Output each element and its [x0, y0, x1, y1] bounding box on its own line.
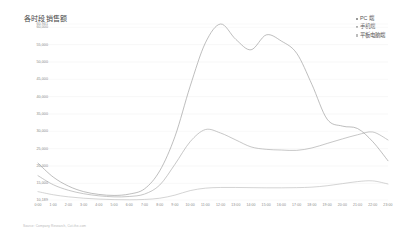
y-axis-tick-label: 60,941	[36, 22, 48, 26]
x-axis-tick-label: 17:00	[292, 203, 301, 207]
x-axis-tick-label: 1:00	[50, 203, 57, 207]
x-axis-tick-label: 8:00	[156, 203, 163, 207]
x-axis-tick-label: 21:00	[353, 203, 362, 207]
y-axis-tick-label: 25,000	[36, 147, 48, 151]
y-axis: 10,18915,00020,00025,00030,00035,00040,0…	[22, 22, 48, 200]
series-line	[38, 181, 388, 200]
x-axis-tick-label: 15:00	[262, 203, 271, 207]
x-axis-tick-label: 18:00	[307, 203, 316, 207]
x-axis: 0:001:002:003:004:005:006:007:008:009:00…	[38, 203, 388, 213]
x-axis-tick-label: 16:00	[277, 203, 286, 207]
y-axis-tick-label: 10,189	[36, 198, 48, 202]
x-axis-tick-label: 2:00	[65, 203, 72, 207]
y-axis-tick-label: 30,000	[36, 129, 48, 133]
x-axis-tick-label: 12:00	[216, 203, 225, 207]
x-axis-tick-label: 14:00	[246, 203, 255, 207]
plot-area: 10,18915,00020,00025,00030,00035,00040,0…	[0, 0, 401, 234]
x-axis-tick-label: 19:00	[322, 203, 331, 207]
x-axis-tick-label: 20:00	[338, 203, 347, 207]
x-axis-tick-label: 13:00	[231, 203, 240, 207]
x-axis-tick-label: 4:00	[95, 203, 102, 207]
x-axis-tick-label: 23:00	[383, 203, 392, 207]
series-line	[38, 129, 388, 197]
x-axis-tick-label: 5:00	[110, 203, 117, 207]
chart-svg	[0, 0, 401, 234]
y-axis-tick-label: 15,000	[36, 181, 48, 185]
x-axis-tick-label: 11:00	[201, 203, 210, 207]
chart-card: 各时段销售额 PC 端 手机端 平板电脑端 10,18915,00020,000…	[0, 0, 401, 234]
source-note: Source: Company Research, Cut-the-com	[23, 224, 86, 228]
y-axis-tick-label: 50,000	[36, 60, 48, 64]
gridlines	[38, 24, 388, 200]
series-line	[38, 24, 388, 195]
x-axis-tick-label: 3:00	[80, 203, 87, 207]
x-axis-tick-label: 0:00	[34, 203, 41, 207]
series-lines	[38, 24, 388, 200]
y-axis-tick-label: 40,000	[36, 95, 48, 99]
x-axis-tick-label: 22:00	[368, 203, 377, 207]
x-axis-tick-label: 10:00	[186, 203, 195, 207]
y-axis-tick-label: 55,000	[36, 43, 48, 47]
y-axis-tick-label: 45,000	[36, 77, 48, 81]
x-axis-tick-label: 6:00	[126, 203, 133, 207]
x-axis-tick-label: 7:00	[141, 203, 148, 207]
y-axis-tick-label: 35,000	[36, 112, 48, 116]
y-axis-tick-label: 20,000	[36, 164, 48, 168]
x-axis-tick-label: 9:00	[171, 203, 178, 207]
